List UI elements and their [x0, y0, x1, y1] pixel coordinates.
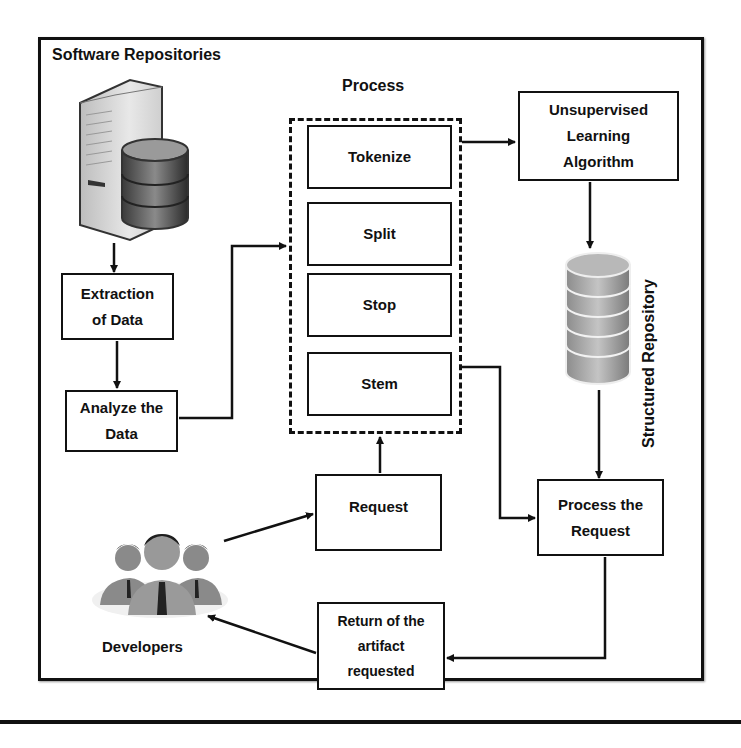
- process-group-label: Process: [342, 77, 404, 95]
- database-cylinder-icon: [563, 250, 633, 390]
- stop-box: Stop: [307, 273, 452, 337]
- return-artifact-box: Return of the artifact requested: [317, 602, 445, 690]
- stem-box: Stem: [307, 352, 452, 416]
- tokenize-box: Tokenize: [307, 125, 452, 189]
- developers-label: Developers: [102, 638, 183, 655]
- server-database-icon: [70, 75, 190, 245]
- people-group-icon: [90, 520, 230, 620]
- structured-repository-label: Structured Repository: [640, 279, 658, 448]
- software-repositories-title: Software Repositories: [52, 46, 221, 64]
- split-box: Split: [307, 202, 452, 266]
- bottom-rule: [0, 720, 741, 724]
- request-box: Request: [315, 474, 442, 551]
- extraction-of-data-box: Extraction of Data: [61, 273, 174, 340]
- unsupervised-learning-box: Unsupervised Learning Algorithm: [518, 91, 679, 181]
- analyze-the-data-box: Analyze the Data: [65, 390, 178, 452]
- process-the-request-box: Process the Request: [537, 479, 664, 556]
